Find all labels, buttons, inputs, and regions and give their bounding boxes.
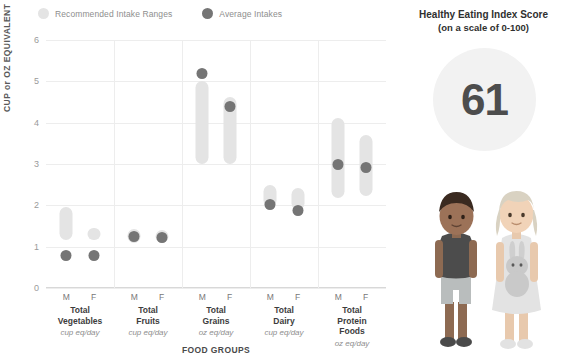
boy-figure [435, 192, 477, 347]
y-tick-6: 6 [34, 35, 46, 45]
infographic-root: Recommended Intake Ranges Average Intake… [0, 0, 567, 360]
y-tick-3: 3 [34, 159, 46, 169]
average-dot [292, 205, 303, 216]
score-circle: 61 [433, 48, 536, 151]
y-tick-0: 0 [34, 283, 46, 293]
average-dot [360, 162, 371, 173]
y-tick-2: 2 [34, 200, 46, 210]
gridline-y-2 [46, 205, 386, 206]
legend-swatch-recommended-icon [38, 8, 49, 19]
score-value: 61 [461, 75, 508, 125]
plot-area: 0123456 [46, 40, 386, 288]
gridline-y-1 [46, 247, 386, 248]
average-dot [61, 250, 72, 261]
x-tick-sex-f: F [295, 292, 300, 302]
legend-label-recommended: Recommended Intake Ranges [55, 9, 172, 19]
group-separator-2 [182, 40, 183, 288]
x-tick-sex-f: F [159, 292, 164, 302]
score-title-line1: Healthy Eating Index Score [400, 8, 567, 21]
average-dot [333, 159, 344, 170]
girl-figure [492, 191, 541, 349]
score-title-line2: (on a scale of 0-100) [400, 21, 567, 34]
y-axis-title: CUP or OZ EQUIVALENT [2, 4, 12, 112]
y-tick-1: 1 [34, 242, 46, 252]
children-illustration [400, 170, 567, 360]
average-dot [156, 232, 167, 243]
score-panel: Healthy Eating Index Score (on a scale o… [400, 0, 567, 360]
x-tick-sex-f: F [363, 292, 368, 302]
legend-label-average: Average Intakes [219, 9, 282, 19]
x-tick-sex-m: M [63, 292, 70, 302]
chart-panel: Recommended Intake Ranges Average Intake… [0, 0, 400, 360]
average-dot [88, 250, 99, 261]
group-separator-4 [318, 40, 319, 288]
gridline-y-6 [46, 40, 386, 41]
group-separator-3 [250, 40, 251, 288]
average-dot [224, 101, 235, 112]
y-tick-5: 5 [34, 76, 46, 86]
x-axis-labels: FOOD GROUPS MFTotalVegetablescup eq/dayM… [46, 288, 386, 360]
x-group-unit: oz eq/day [304, 338, 400, 349]
legend-item-recommended: Recommended Intake Ranges [38, 8, 172, 19]
x-tick-sex-m: M [335, 292, 342, 302]
gridline-y-5 [46, 81, 386, 82]
group-separator-1 [114, 40, 115, 288]
average-dot [265, 199, 276, 210]
x-tick-sex-m: M [199, 292, 206, 302]
x-tick-sex-f: F [227, 292, 232, 302]
average-dot [197, 68, 208, 79]
legend-swatch-average-icon [202, 8, 213, 19]
x-tick-sex-m: M [267, 292, 274, 302]
x-group-label: TotalProteinFoodsoz eq/day [304, 305, 400, 349]
x-tick-sex-m: M [131, 292, 138, 302]
chart-legend: Recommended Intake Ranges Average Intake… [38, 8, 282, 19]
range-bar [60, 207, 73, 240]
x-tick-sex-f: F [91, 292, 96, 302]
range-bar [87, 228, 100, 240]
legend-item-average: Average Intakes [202, 8, 282, 19]
score-panel-title: Healthy Eating Index Score (on a scale o… [400, 8, 567, 34]
y-tick-4: 4 [34, 118, 46, 128]
x-group-name: TotalProteinFoods [304, 305, 400, 337]
average-dot [129, 231, 140, 242]
range-bar [196, 81, 209, 164]
